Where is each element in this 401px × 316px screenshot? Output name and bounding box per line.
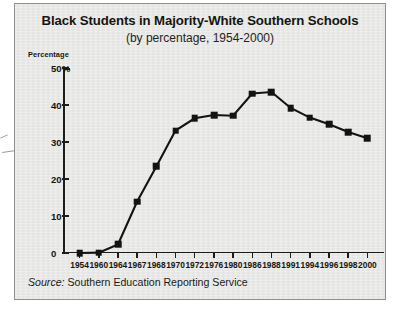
source-label: Source: <box>28 276 65 288</box>
data-point-1980 <box>230 112 237 119</box>
x-tick-label-1996: 1996 <box>320 260 339 270</box>
y-tick-label-10: 10 <box>51 211 57 222</box>
data-point-1967 <box>134 198 141 205</box>
data-point-1960 <box>95 249 102 256</box>
chart-figure: Black Students in Majority-White Souther… <box>14 3 386 300</box>
series-polyline <box>63 68 384 253</box>
x-tick-label-1988: 1988 <box>262 260 281 270</box>
data-point-1968 <box>153 163 160 170</box>
chart-title: Black Students in Majority-White Souther… <box>15 13 385 28</box>
source-text: Southern Education Reporting Service <box>67 276 247 288</box>
data-point-1991 <box>287 105 294 112</box>
x-tick-label-1968: 1968 <box>147 260 166 270</box>
x-tick-label-1986: 1986 <box>243 260 262 270</box>
data-point-1994 <box>307 114 314 121</box>
y-tick-label-40: 40 <box>51 100 57 111</box>
data-point-1970 <box>172 127 179 134</box>
data-point-2000 <box>364 135 371 142</box>
x-tick-label-1972: 1972 <box>185 260 204 270</box>
data-point-1964 <box>115 241 122 248</box>
data-point-1986 <box>249 90 256 97</box>
y-tick-label-50: 50% <box>51 63 57 74</box>
data-series-line <box>63 68 384 253</box>
y-tick-label-0: 0 <box>51 248 57 259</box>
x-tick-label-1976: 1976 <box>205 260 224 270</box>
y-tick-label-20: 20 <box>51 174 57 185</box>
x-tick-label-1970: 1970 <box>166 260 185 270</box>
data-point-1972 <box>191 115 198 122</box>
source-note: Source: Southern Education Reporting Ser… <box>28 276 248 288</box>
data-point-1998 <box>345 129 352 136</box>
x-tick-label-2000: 2000 <box>358 260 377 270</box>
chart-subtitle: (by percentage, 1954-2000) <box>15 31 385 45</box>
x-tick-label-1960: 1960 <box>89 260 108 270</box>
x-tick-label-1980: 1980 <box>224 260 243 270</box>
scanned-page: Black Students in Majority-White Souther… <box>0 0 401 316</box>
x-tick-label-1964: 1964 <box>109 260 128 270</box>
stray-pencil-mark-secondary <box>0 134 8 138</box>
x-tick-label-1994: 1994 <box>301 260 320 270</box>
x-tick-label-1967: 1967 <box>128 260 147 270</box>
data-point-1988 <box>268 89 275 96</box>
x-tick-label-1991: 1991 <box>281 260 300 270</box>
x-tick-label-1954: 1954 <box>70 260 89 270</box>
series-path <box>80 92 368 253</box>
x-tick-label-1998: 1998 <box>339 260 358 270</box>
plot-area: 01020304050% 195419601964196719681970197… <box>63 68 384 253</box>
y-axis-title: Percentage <box>28 50 69 59</box>
data-point-1996 <box>326 121 333 128</box>
data-point-1976 <box>211 112 218 119</box>
y-tick-label-30: 30 <box>51 137 57 148</box>
data-point-1954 <box>76 250 83 257</box>
